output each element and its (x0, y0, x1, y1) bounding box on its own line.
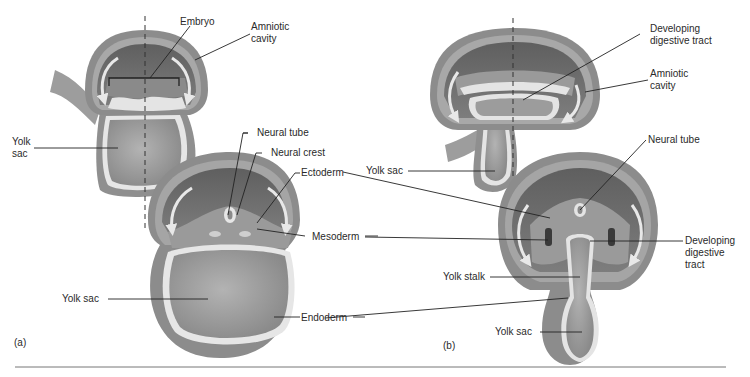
panel-label-b: (b) (443, 340, 455, 351)
label-yolk-stalk: Yolk stalk (443, 271, 485, 283)
label-amniotic-cavity-a: Amniotic cavity (251, 21, 289, 45)
label-amniotic-cavity-b: Amniotic cavity (650, 68, 688, 92)
label-neural-tube-a: Neural tube (257, 127, 309, 139)
label-ectoderm: Ectoderm (301, 167, 344, 179)
label-endoderm: Endoderm (301, 312, 347, 324)
label-developing-digestive-tract-upper: Developing digestive tract (650, 23, 712, 47)
label-yolk-sac-a-upper: Yolk sac (12, 136, 31, 160)
label-neural-crest: Neural crest (271, 147, 325, 159)
label-developing-digestive-tract-lower: Developing digestive tract (685, 235, 735, 271)
label-yolk-sac-b-lower: Yolk sac (495, 326, 532, 338)
label-embryo: Embryo (180, 16, 214, 28)
label-yolk-sac-b-upper: Yolk sac (366, 165, 403, 177)
label-mesoderm: Mesoderm (312, 231, 359, 243)
label-yolk-sac-a-lower: Yolk sac (62, 293, 99, 305)
panel-label-a: (a) (14, 337, 26, 348)
embryo-folding-diagram: Embryo Amniotic cavity Yolk sac Neural t… (0, 0, 750, 377)
label-neural-tube-b: Neural tube (648, 134, 700, 146)
panel-a-cross-section (148, 152, 300, 358)
diagram-artwork (0, 0, 750, 377)
